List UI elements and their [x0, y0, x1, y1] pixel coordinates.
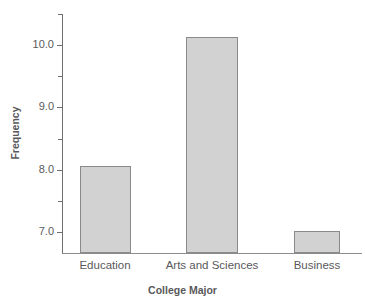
y-tick-label-7: 7.0: [18, 226, 54, 237]
y-minor-tick-1: [58, 14, 63, 15]
bar-arts-and-sciences[interactable]: [186, 37, 238, 253]
y-minor-tick-2: [58, 76, 63, 77]
x-tick-label-business: Business: [272, 258, 362, 272]
y-tick-9: [57, 107, 63, 108]
y-tick-10: [57, 45, 63, 46]
x-axis-title: College Major: [0, 284, 365, 296]
y-axis-line: [62, 14, 63, 253]
y-minor-tick-4: [58, 201, 63, 202]
y-tick-label-8: 8.0: [18, 164, 54, 175]
y-tick-8: [57, 170, 63, 171]
chart-title-remnant: [60, 0, 260, 4]
y-axis-title: Frequency: [9, 88, 21, 178]
bar-chart: 10.0 9.0 8.0 7.0 Education Arts and Scie…: [0, 0, 365, 308]
y-tick-label-10: 10.0: [18, 39, 54, 50]
x-axis-line: [62, 253, 362, 254]
y-tick-7: [57, 232, 63, 233]
bar-business[interactable]: [294, 231, 340, 253]
bar-education[interactable]: [80, 166, 131, 253]
x-tick-label-arts-and-sciences: Arts and Sciences: [152, 258, 272, 272]
y-tick-label-9: 9.0: [18, 101, 54, 112]
x-tick-label-education: Education: [55, 258, 155, 272]
y-minor-tick-3: [58, 139, 63, 140]
